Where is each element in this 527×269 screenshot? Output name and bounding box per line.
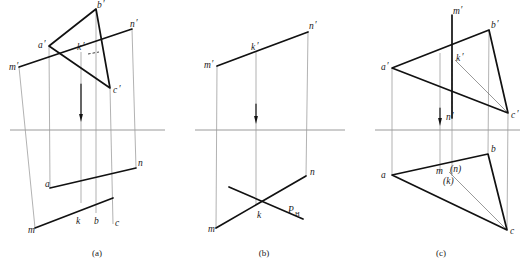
label-b: b (94, 216, 99, 226)
label-n: n (138, 158, 143, 168)
figure-b-arrow-head (254, 116, 258, 124)
label-m-top: m (436, 166, 443, 176)
label-c-prime-prime-mark: ′ (516, 109, 519, 119)
label-m-prime-prime-mark: ′ (211, 59, 214, 69)
figure-c-arrow-head (438, 118, 442, 126)
figure-a-labels: b′n′a′k′m′c′nakbcm (9, 0, 143, 235)
label-b: b (491, 144, 496, 154)
label-n-paren: (n) (450, 164, 461, 175)
caption-b: (b) (259, 248, 270, 258)
figure-captions: (a)(b)(c) (92, 248, 446, 258)
label-m-prime-prime-mark: ′ (460, 5, 463, 15)
label-m-prime: m (453, 6, 460, 16)
label-k-prime-prime-mark: ′ (461, 52, 464, 62)
label-a-prime-prime-mark: ′ (386, 61, 389, 71)
label-b-prime: b (97, 0, 102, 10)
figure-c-triangle-front-view (392, 30, 508, 113)
label-n-prime: n (130, 19, 135, 29)
figure-c-median-top-view (449, 172, 507, 230)
figure-c-median-front-view (455, 60, 508, 113)
figure-b-line-mn-top-view (216, 176, 306, 228)
figure-b-projector-0 (216, 66, 217, 228)
label-n-prime-prime-mark: ′ (135, 18, 138, 28)
figure-b-line-mn-front-view (217, 32, 308, 66)
label-a-prime: a (38, 40, 43, 50)
label-n-prime-prime-mark: ′ (314, 20, 317, 30)
label-k-prime: k (251, 42, 256, 52)
figure-a-projector-5 (132, 29, 136, 168)
label-a-prime-prime-mark: ′ (43, 39, 46, 49)
label-m: m (208, 224, 215, 234)
label-k-prime: k (77, 42, 82, 52)
label-c-prime: c (511, 110, 516, 120)
label-ph-main: P (287, 205, 294, 215)
label-n-prime-prime-mark: ′ (451, 111, 454, 121)
figure-c-group: m′b′k′a′c′n′bam(n)(k)c (375, 5, 520, 236)
label-h-subscript: H (295, 210, 300, 217)
figure-a-projector-1 (49, 46, 50, 188)
label-k-prime-prime-mark: ′ (82, 41, 85, 51)
label-k: k (76, 216, 81, 226)
figure-a-direction-arrow (79, 84, 83, 122)
figure-b-group: n′k′m′nkPHm (195, 20, 345, 234)
figure-c-direction-arrow (438, 108, 442, 126)
figure-b-projector-2 (306, 32, 308, 176)
figure-a-arrow-head (79, 114, 83, 122)
label-a: a (381, 170, 386, 180)
figure-a-group: b′n′a′k′m′c′nakbcm (9, 0, 165, 235)
figure-c-projector-3 (488, 30, 489, 154)
figure-a-triangle-top-view (50, 168, 136, 188)
label-m-prime: m (9, 62, 16, 72)
label-b-prime-prime-mark: ′ (102, 0, 105, 9)
label-c: c (115, 218, 120, 228)
figure-c-labels: m′b′k′a′c′n′bam(n)(k)c (381, 5, 519, 236)
caption-c: (c) (436, 248, 446, 258)
label-c-prime-prime-mark: ′ (118, 84, 121, 94)
label-n-prime: n (309, 21, 314, 31)
label-a: a (45, 179, 50, 189)
label-c: c (510, 226, 515, 236)
figure-a-projector-0 (19, 67, 35, 228)
label-n-prime: n (446, 112, 451, 122)
caption-a: (a) (92, 248, 102, 258)
label-b-prime: b (491, 20, 496, 30)
label-m: m (28, 225, 35, 235)
figure-a-hidden-mark (88, 52, 99, 54)
label-c-prime: c (113, 85, 118, 95)
projection-plate: b′n′a′k′m′c′nakbcm n′k′m′nkPHm m′b′k′a′c… (0, 0, 527, 269)
figure-a-projector-4 (110, 88, 113, 224)
label-k-prime: k (456, 53, 461, 63)
figure-b-direction-arrow (254, 104, 258, 124)
figure-canvas: b′n′a′k′m′c′nakbcm n′k′m′nkPHm m′b′k′a′c… (0, 0, 527, 269)
figure-c-projector-4 (507, 113, 508, 230)
label-n: n (310, 167, 315, 177)
label-k: k (257, 210, 262, 220)
label-m-prime: m (204, 60, 211, 70)
figure-a-line-mn-front-view (19, 29, 132, 67)
label-k-paren: (k) (443, 176, 454, 187)
figure-a-line-mn-top-view (35, 198, 113, 228)
label-b-prime-prime-mark: ′ (496, 19, 499, 29)
label-a-prime: a (381, 62, 386, 72)
